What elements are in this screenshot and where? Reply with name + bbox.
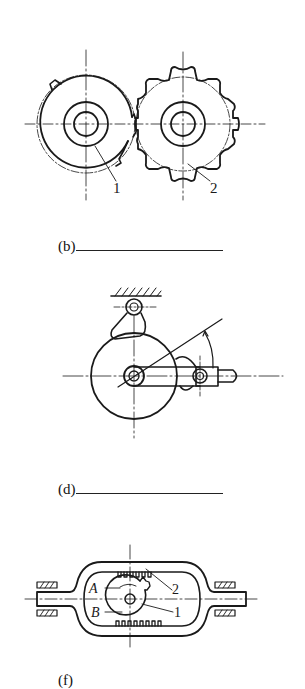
caption-b-label: (b) [58, 238, 76, 254]
figure-d-drawing [63, 288, 283, 438]
figure-f-drawing [25, 545, 258, 650]
part-label-2-f: 2 [172, 582, 179, 597]
rotation-arrow-arc [120, 584, 136, 587]
answer-blank-b[interactable] [76, 250, 223, 251]
gear1-stop-tooth-bottom [116, 141, 128, 166]
ground-hatching [115, 288, 161, 296]
rotation-arc [205, 333, 213, 368]
caption-f-label: (f) [58, 672, 73, 688]
part-label-B: B [91, 605, 100, 620]
part-label-A: A [88, 581, 98, 596]
arm-cam-lobe [176, 357, 196, 367]
answer-blank-d[interactable] [76, 493, 223, 494]
part-label-1-f: 1 [174, 605, 181, 620]
caption-b: (b) [58, 238, 223, 255]
incomplete-gear-1 [37, 75, 136, 181]
figure-b-drawing [25, 50, 265, 200]
caption-d-label: (d) [58, 481, 76, 497]
partial-gear-teeth [140, 577, 150, 590]
caption-d: (d) [58, 481, 223, 498]
caption-f: (f) [58, 672, 73, 689]
part-label-2-b: 2 [210, 180, 218, 196]
follower-block [111, 313, 145, 339]
leader-line-1 [95, 146, 116, 181]
leader-line-1-f [142, 604, 173, 612]
part-label-1-b: 1 [113, 180, 121, 196]
